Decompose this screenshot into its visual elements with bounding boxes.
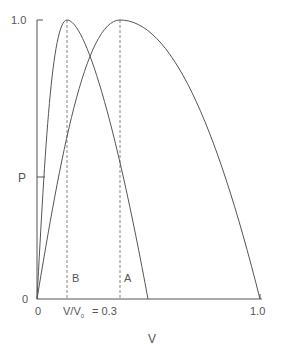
chart-plot	[0, 0, 285, 359]
marker-b: B	[72, 273, 79, 284]
marker-a: A	[124, 273, 131, 284]
x-label-zero: 0	[35, 306, 41, 317]
curve-b	[37, 20, 148, 299]
ratio-text: V/V	[63, 305, 81, 317]
x-label-end: 1.0	[250, 306, 265, 317]
y-label-zero: 0	[22, 294, 28, 305]
y-label-top: 1.0	[11, 15, 26, 26]
ratio-value: = 0.3	[92, 305, 117, 317]
x-axis-title: V	[148, 333, 156, 345]
ratio-subscript: 0	[81, 313, 84, 319]
x-label-ratio: V/V0= 0.3	[63, 306, 117, 319]
y-label-p: P	[18, 172, 26, 184]
curve-a	[37, 20, 260, 299]
